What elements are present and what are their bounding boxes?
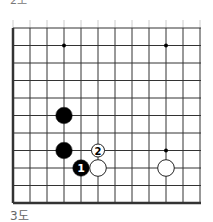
move-number: 2 [95,146,102,157]
stone-disc [56,107,73,124]
stone-disc [90,160,107,177]
star-point [164,149,168,153]
star-point [62,44,66,48]
stone-disc [158,160,175,177]
stone-disc [56,142,73,159]
grid-lines [13,20,201,203]
black-stone [56,142,73,159]
white-stone-2: 2 [92,144,105,157]
move-number: 1 [77,162,85,175]
black-stone-1: 1 [73,160,90,177]
white-stone [90,160,107,177]
black-stone [56,107,73,124]
star-point [164,44,168,48]
go-board: 12 [0,0,213,222]
diagram-caption: 3도 [10,206,29,222]
white-stone [158,160,175,177]
